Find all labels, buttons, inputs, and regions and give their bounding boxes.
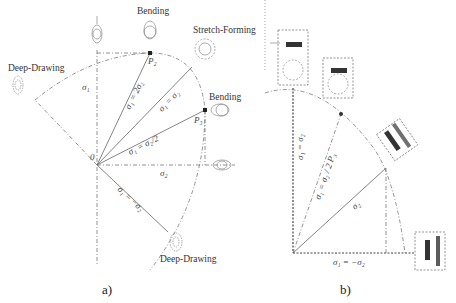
tool-icon-bottom-right — [415, 232, 445, 270]
caption-b: b) — [340, 282, 351, 297]
yield-locus-b — [265, 90, 405, 253]
point-p3-b — [339, 112, 343, 116]
label-b-bottom: σ₁ = −σ₂ — [333, 257, 365, 267]
diagram-canvas: Bending Stretch-Forming Deep-Drawing Ben… — [0, 0, 456, 303]
tool-icon-right — [377, 119, 418, 161]
stretch-forming-icon — [195, 39, 215, 59]
label-line-sigma2: σ₁ = σ₂ — [156, 88, 181, 113]
label-deep-drawing-bottom: Deep-Drawing — [160, 254, 217, 264]
label-line-neg-sigma2: σ₁ = −σ₂ — [116, 184, 146, 213]
line-sigma1-sigma2 — [97, 67, 192, 165]
label-b-vertical: σ₁ = σ₂ — [295, 134, 305, 160]
deep-drawing-left-icon — [13, 76, 23, 94]
point-p3 — [203, 108, 207, 112]
label-p2: P₂ — [147, 56, 157, 66]
label-bending-right: Bending — [209, 92, 241, 102]
yield-locus — [35, 53, 205, 270]
caption-a: a) — [102, 282, 112, 297]
label-line-2sigma2: σ₁ = 2σ₂ — [123, 79, 145, 111]
label-axis-sigma1: σ₁ — [82, 82, 90, 92]
deep-drawing-bottom-icon — [170, 233, 182, 251]
label-axis-sigma2: σ₂ — [160, 168, 168, 178]
tool-icon-top-left — [270, 30, 308, 85]
bending-top-icon — [144, 21, 156, 39]
label-line-half-sigma2: σ₁ = σ₂/2 — [126, 133, 160, 157]
label-b-diag: σ₁ = σ₂ / 2 P₃ — [312, 152, 337, 201]
label-p3: P₃ — [193, 115, 203, 125]
panel-b: σ₁ = σ₂ σ₁ = σ₂ / 2 P₃ σ₂ σ₁ = −σ₂ b) — [265, 0, 445, 297]
label-deep-drawing-left: Deep-Drawing — [8, 63, 65, 73]
line-b-mid — [293, 168, 386, 253]
label-b-mid: σ₂ — [350, 199, 362, 212]
top-axis-icon — [92, 16, 102, 43]
tool-icon-top-mid — [323, 58, 353, 98]
line-deep-drawing-left — [35, 100, 97, 165]
label-origin: 0 — [90, 152, 95, 162]
label-bending-top: Bending — [137, 6, 169, 16]
bending-right-icon — [211, 104, 229, 116]
point-p2 — [148, 51, 152, 55]
panel-a: Bending Stretch-Forming Deep-Drawing Ben… — [8, 6, 256, 297]
label-stretch-forming: Stretch-Forming — [193, 25, 256, 35]
